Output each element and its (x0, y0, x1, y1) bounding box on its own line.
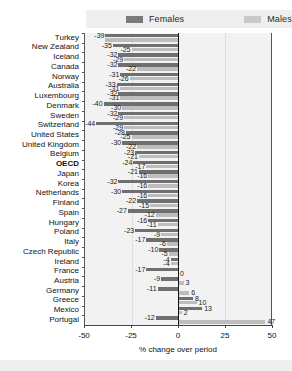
bar-value-label: 0 (180, 270, 184, 277)
value-axis-tick-label: -50 (78, 331, 90, 340)
category-label: Switzerland (38, 121, 79, 129)
bar-value-label: -22 (126, 197, 136, 204)
value-axis-tick (84, 325, 85, 328)
value-axis-tick (225, 325, 226, 328)
bar-value-label: -12 (145, 314, 155, 321)
bar-value-label: -30 (111, 139, 121, 146)
bar-females (118, 180, 178, 184)
bar-males (124, 126, 178, 130)
category-label: Canada (51, 63, 79, 71)
legend-swatch-males-icon (244, 16, 261, 23)
category-label: OECD (56, 160, 79, 168)
category-label: Sweden (50, 112, 79, 120)
bar-males (124, 116, 178, 120)
category-label: France (54, 267, 79, 275)
value-axis-tick (131, 325, 132, 328)
bar-males (167, 242, 178, 246)
bar-males (122, 106, 178, 110)
category-label: Poland (54, 228, 79, 236)
category-label: United States (31, 131, 79, 139)
bar-males (105, 38, 178, 42)
category-label: Korea (58, 180, 79, 188)
category-label: Spain (59, 209, 79, 217)
bar-value-label: -16 (137, 217, 147, 224)
bar-females (161, 277, 178, 281)
bar-males (130, 77, 178, 81)
category-label: Netherlands (36, 189, 79, 197)
category-label: Greece (53, 296, 79, 304)
legend-label-females: Females (149, 14, 184, 24)
category-label: Iceland (53, 53, 79, 61)
category-label: Japan (57, 170, 79, 178)
bar-males (178, 320, 265, 324)
bar-value-label: -6 (160, 240, 166, 247)
bar-value-label: -16 (137, 172, 147, 179)
plot-area: -39-35-25-32-29-32-22-31-26-33-31-32-31-… (84, 33, 272, 325)
bar-males (156, 213, 178, 217)
bar-value-label: -17 (135, 236, 145, 243)
bar-males (169, 252, 178, 256)
category-label: Hungary (49, 219, 79, 227)
bar-males (137, 145, 178, 149)
axis-title-x: % change over period (139, 345, 217, 354)
category-label: Ireland (55, 258, 79, 266)
category-label: Australia (48, 82, 79, 90)
bar-value-label: -16 (137, 182, 147, 189)
bar-males (161, 233, 178, 237)
bar-males (146, 165, 178, 169)
bar-females (105, 34, 178, 38)
bar-females (118, 92, 178, 96)
legend-label-males: Males (267, 14, 292, 24)
bar-value-label: -23 (124, 227, 134, 234)
bar-females (118, 53, 178, 57)
chart-legend: Females Males (86, 10, 292, 28)
value-axis-tick (178, 325, 179, 328)
category-label: Portugal (49, 316, 79, 324)
bar-males (171, 262, 178, 266)
bar-value-label: -44 (85, 120, 95, 127)
bar-value-label: -16 (137, 192, 147, 199)
bar-males (150, 204, 178, 208)
bar-value-label: -17 (135, 266, 145, 273)
legend-item-males: Males (244, 14, 292, 24)
category-axis-labels: TurkeyNew ZealandIcelandCanadaNorwayAust… (0, 33, 82, 325)
bar-value-label: -39 (94, 32, 104, 39)
bar-males (137, 67, 178, 71)
bar-females (156, 316, 178, 320)
bar-value-label: -25 (120, 133, 130, 140)
bar-value-label: -40 (92, 100, 102, 107)
legend-swatch-females-icon (126, 16, 143, 23)
category-label: Austria (54, 277, 79, 285)
bar-value-label: -24 (122, 159, 132, 166)
bar-males (120, 87, 178, 91)
category-label: United Kingdom (22, 141, 79, 149)
bar-males (148, 194, 178, 198)
bar-females (126, 131, 178, 135)
bar-females (178, 297, 193, 301)
value-axis-tick (272, 325, 273, 328)
category-label: Belgium (50, 150, 79, 158)
bar-females (171, 258, 178, 262)
chart-root: Females Males TurkeyNew ZealandIcelandCa… (0, 0, 292, 371)
category-label: Italy (64, 238, 79, 246)
category-label: Finland (53, 199, 79, 207)
bar-value-label: -26 (119, 75, 129, 82)
category-label: Denmark (47, 102, 79, 110)
value-axis-tick-label: 50 (268, 331, 277, 340)
category-label: Luxembourg (35, 92, 79, 100)
bar-females (146, 268, 178, 272)
title-band (0, 0, 292, 9)
footer-band (0, 360, 292, 371)
value-axis-tick-label: 0 (176, 331, 180, 340)
bar-females (118, 112, 178, 116)
category-label: Germany (46, 287, 79, 295)
bar-value-label: -11 (147, 285, 157, 292)
bar-value-label: -25 (120, 46, 130, 53)
bar-value-label: -35 (102, 42, 112, 49)
bar-males (178, 291, 189, 295)
bar-males (158, 223, 178, 227)
category-label: Mexico (54, 306, 79, 314)
bar-value-label: -15 (139, 202, 149, 209)
bar-males (132, 135, 179, 139)
bar-value-label: -32 (107, 178, 117, 185)
